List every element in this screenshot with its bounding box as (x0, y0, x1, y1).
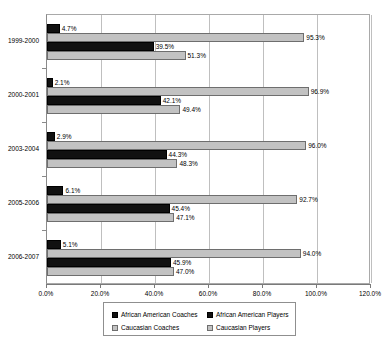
y-axis-tick (42, 176, 46, 177)
bar-row: 44.3% (47, 150, 369, 159)
x-axis-tick-label: 20.0% (78, 289, 122, 298)
plot-area: 4.7%95.3%39.5%51.3%2.1%96.9%42.1%49.4%2.… (46, 14, 370, 284)
legend-swatch-icon (207, 325, 213, 331)
bar-row: 39.5% (47, 42, 369, 51)
chart-legend: African American CoachesAfrican American… (103, 302, 296, 336)
x-axis-tick (370, 284, 371, 288)
bar-row: 45.4% (47, 204, 369, 213)
bar (47, 24, 60, 33)
legend-label: Caucasian Coaches (121, 323, 179, 332)
bar (47, 213, 174, 222)
bar-row: 51.3% (47, 51, 369, 60)
legend-item[interactable]: African American Players (207, 310, 289, 319)
bar-row: 49.4% (47, 105, 369, 114)
y-axis-tick (42, 68, 46, 69)
bar-value-label: 4.7% (60, 24, 77, 34)
bar-value-label: 96.9% (309, 87, 329, 97)
bar-value-label: 51.3% (186, 51, 206, 61)
bar (47, 240, 61, 249)
x-axis-tick-label: 80.0% (240, 289, 284, 298)
y-axis-category-label: 2000-2001 (0, 91, 39, 99)
x-axis-tick (154, 284, 155, 288)
legend-swatch-icon (112, 325, 118, 331)
y-axis-category-label: 2005-2006 (0, 199, 39, 207)
gridline (371, 15, 372, 283)
legend-label: African American Coaches (121, 310, 198, 319)
legend-swatch-icon (112, 312, 118, 318)
bar-row: 95.3% (47, 33, 369, 42)
legend-item[interactable]: Caucasian Players (207, 323, 270, 332)
y-axis-category-label: 1999-2000 (0, 37, 39, 45)
bar-value-label: 39.5% (154, 42, 174, 52)
y-axis-category-label: 2003-2004 (0, 145, 39, 153)
bar (47, 51, 186, 60)
bar-value-label: 96.0% (306, 141, 326, 151)
y-axis-category-label: 2006-2007 (0, 253, 39, 261)
bar (47, 42, 154, 51)
bar-row: 47.1% (47, 213, 369, 222)
bar-value-label: 6.1% (63, 186, 80, 196)
bar-row: 42.1% (47, 96, 369, 105)
bar-value-label: 95.3% (304, 33, 324, 43)
x-axis-tick (100, 284, 101, 288)
bar (47, 186, 63, 195)
x-axis-tick (316, 284, 317, 288)
bar-row: 47.0% (47, 267, 369, 276)
x-axis-tick-label: 40.0% (132, 289, 176, 298)
bar-value-label: 94.0% (301, 249, 321, 259)
bar-value-label: 48.3% (177, 159, 197, 169)
bar (47, 150, 167, 159)
legend-swatch-icon (207, 312, 213, 318)
x-axis-tick (208, 284, 209, 288)
y-axis: 1999-20002000-20012003-20042005-20062006… (0, 14, 44, 284)
y-axis-tick (42, 122, 46, 123)
bar-row: 6.1% (47, 186, 369, 195)
bar-value-label: 42.1% (161, 96, 181, 106)
bar (47, 267, 174, 276)
bar (47, 159, 177, 168)
bar-value-label: 49.4% (180, 105, 200, 115)
bar (47, 33, 304, 42)
bar (47, 105, 180, 114)
legend-label: Caucasian Players (216, 323, 270, 332)
legend-item[interactable]: Caucasian Coaches (112, 323, 179, 332)
legend-item[interactable]: African American Coaches (112, 310, 198, 319)
bar (47, 96, 161, 105)
x-axis-tick (46, 284, 47, 288)
bar (47, 204, 170, 213)
bar-row: 48.3% (47, 159, 369, 168)
bar-value-label: 92.7% (297, 195, 317, 205)
bar-row: 94.0% (47, 249, 369, 258)
bar (47, 132, 55, 141)
bar-value-label: 2.9% (55, 132, 72, 142)
y-axis-tick (42, 230, 46, 231)
x-axis-tick-label: 0.0% (24, 289, 68, 298)
x-axis-tick-label: 100.0% (294, 289, 338, 298)
bar-row: 96.9% (47, 87, 369, 96)
bar-row: 96.0% (47, 141, 369, 150)
x-axis-tick-label: 60.0% (186, 289, 230, 298)
bar (47, 258, 171, 267)
x-axis-tick (262, 284, 263, 288)
x-axis-tick-label: 120.0% (348, 289, 385, 298)
bar-row: 92.7% (47, 195, 369, 204)
bar-chart: 4.7%95.3%39.5%51.3%2.1%96.9%42.1%49.4%2.… (0, 0, 385, 347)
bar-value-label: 2.1% (53, 78, 70, 88)
bar-value-label: 47.0% (174, 267, 194, 277)
bar-value-label: 5.1% (61, 240, 78, 250)
bar-row: 45.9% (47, 258, 369, 267)
bar-value-label: 47.1% (174, 213, 194, 223)
legend-label: African American Players (216, 310, 289, 319)
